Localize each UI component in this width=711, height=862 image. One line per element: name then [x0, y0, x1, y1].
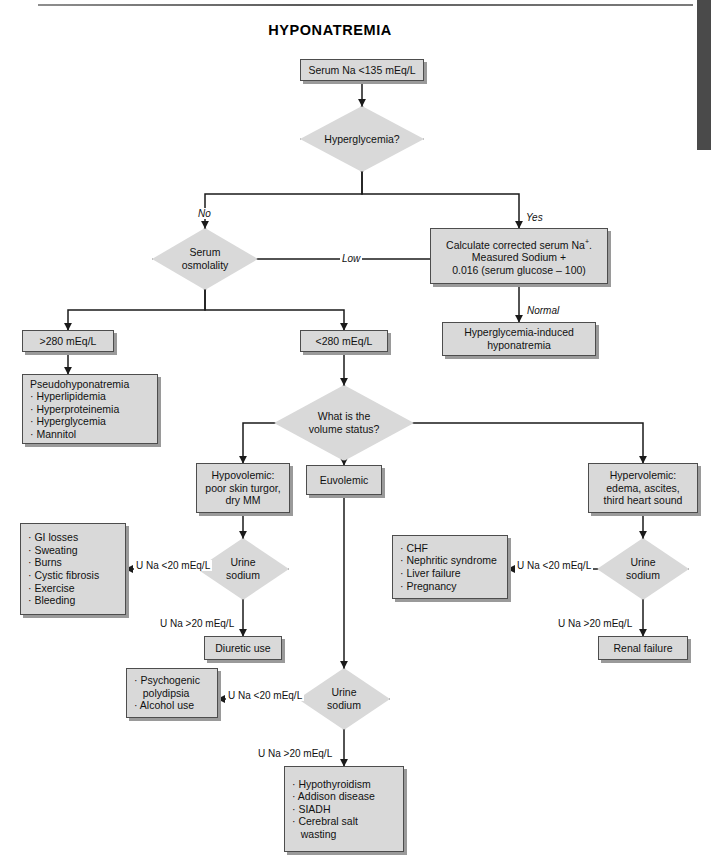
edge-osmolality-to-gt280	[68, 290, 205, 330]
list-item: · Alcohol use	[134, 699, 194, 712]
node-text: Serumosmolality	[152, 228, 258, 290]
node-line: Hyperglycemia-induced	[464, 326, 574, 339]
node-line: <280 mEq/L	[316, 335, 373, 348]
node-text: Pseudohyponatremia· Hyperlipidemia· Hype…	[22, 374, 158, 444]
node-urineRight: Urinesodium	[597, 538, 689, 600]
list-item: · Exercise	[28, 582, 75, 595]
node-start: Serum Na <135 mEq/L	[300, 59, 424, 81]
node-line: hyponatremia	[487, 339, 551, 352]
list-item: · Burns	[28, 556, 62, 569]
node-text: · Psychogenic polydipsia· Alcohol use	[126, 668, 218, 718]
edge-label-low: Low	[340, 253, 362, 264]
node-text: Calculate corrected serum Na+.Measured S…	[430, 228, 608, 284]
node-line: Diuretic use	[215, 642, 270, 655]
node-line: >280 mEq/L	[40, 335, 97, 348]
node-line: 0.016 (serum glucose – 100)	[452, 264, 586, 277]
node-hypervolemic: Hypervolemic:edema, ascites,third heart …	[588, 463, 698, 513]
list-item: · Hyperlipidemia	[30, 390, 106, 403]
node-hyperLowList: · CHF· Nephritic syndrome· Liver failure…	[392, 535, 508, 599]
list-item: · Cystic fibrosis	[28, 569, 99, 582]
node-line: Renal failure	[614, 642, 673, 655]
node-line: edema, ascites,	[606, 482, 680, 495]
node-line: poor skin turgor,	[205, 482, 280, 495]
node-osmolality: Serumosmolality	[152, 228, 258, 290]
list-item: · Cerebral salt	[292, 815, 358, 828]
node-text: · Hypothyroidism· Addison disease· SIADH…	[284, 766, 404, 852]
node-line: Measured Sodium +	[472, 251, 566, 264]
node-line: Euvolemic	[320, 474, 368, 487]
node-urineMid: Urinesodium	[298, 668, 390, 730]
list-item: · Hypothyroidism	[292, 778, 371, 791]
node-text: Renal failure	[598, 636, 688, 660]
node-text: What is thevolume status?	[274, 385, 414, 461]
node-line: Serum	[190, 246, 221, 259]
node-line: Urine	[331, 686, 356, 699]
node-hypovolemic: Hypovolemic:poor skin turgor,dry MM	[196, 463, 290, 513]
node-line: sodium	[226, 569, 260, 582]
node-diuretic: Diuretic use	[204, 636, 282, 660]
node-line: volume status?	[309, 423, 380, 436]
node-text: Hypervolemic:edema, ascites,third heart …	[588, 463, 698, 513]
node-hgInduced: Hyperglycemia-inducedhyponatremia	[442, 322, 596, 356]
node-pseudo: Pseudohyponatremia· Hyperlipidemia· Hype…	[22, 374, 158, 444]
node-text: Hypovolemic:poor skin turgor,dry MM	[196, 463, 290, 513]
node-euvoHighList: · Hypothyroidism· Addison disease· SIADH…	[284, 766, 404, 852]
list-item: · Mannitol	[30, 428, 76, 441]
node-lt280: <280 mEq/L	[300, 330, 388, 352]
list-item: · Bleeding	[28, 594, 75, 607]
node-text: >280 mEq/L	[22, 330, 114, 352]
edge-label-uNaHigh2: U Na >20 mEq/L	[556, 618, 634, 629]
node-euvolemic: Euvolemic	[306, 465, 382, 495]
node-line: Hypovolemic:	[211, 469, 274, 482]
list-item: polydipsia	[134, 687, 189, 700]
edge-label-no: No	[196, 208, 213, 219]
list-item: · Liver failure	[400, 567, 461, 580]
node-line: What is the	[318, 410, 371, 423]
list-item: · SIADH	[292, 803, 331, 816]
edge-hyperglycemia-to-osmolality	[205, 172, 362, 228]
node-text: Urinesodium	[298, 668, 390, 730]
flowchart-page: HYPONATREMIA	[0, 0, 711, 862]
node-line: sodium	[327, 699, 361, 712]
node-hypoLowList: · GI losses· Sweating· Burns· Cystic fib…	[20, 523, 126, 615]
edge-volume-to-hypervolemic	[393, 423, 643, 463]
list-item: wasting	[292, 828, 336, 841]
list-item: · Psychogenic	[134, 674, 200, 687]
node-line: Urine	[230, 556, 255, 569]
node-line: Urine	[630, 556, 655, 569]
node-calc: Calculate corrected serum Na+.Measured S…	[430, 228, 608, 284]
node-hyperglycemia: Hyperglycemia?	[300, 106, 424, 172]
node-text: <280 mEq/L	[300, 330, 388, 352]
edge-hyperglycemia-to-calc	[362, 172, 519, 228]
node-renalFailure: Renal failure	[598, 636, 688, 660]
list-item: · Hyperproteinemia	[30, 403, 119, 416]
node-line: Hyperglycemia?	[324, 133, 399, 146]
list-header: Pseudohyponatremia	[30, 378, 129, 391]
node-volume: What is thevolume status?	[274, 385, 414, 461]
edge-label-uNaLow2: U Na <20 mEq/L	[515, 560, 593, 571]
node-line: dry MM	[226, 494, 261, 507]
node-text: Hyperglycemia?	[300, 106, 424, 172]
list-item: · CHF	[400, 542, 428, 555]
list-item: · Pregnancy	[400, 580, 457, 593]
node-euvoLowList: · Psychogenic polydipsia· Alcohol use	[126, 668, 218, 718]
edge-label-uNaHigh1: U Na >20 mEq/L	[158, 618, 236, 629]
edge-label-uNaLow1: U Na <20 mEq/L	[134, 560, 212, 571]
node-line: Serum Na <135 mEq/L	[308, 64, 415, 77]
node-line: third heart sound	[604, 494, 683, 507]
node-line: sodium	[626, 569, 660, 582]
edge-label-yes: Yes	[524, 212, 545, 223]
node-text: Urinesodium	[597, 538, 689, 600]
node-text: Serum Na <135 mEq/L	[300, 59, 424, 81]
list-item: · Nephritic syndrome	[400, 554, 497, 567]
node-text: · GI losses· Sweating· Burns· Cystic fib…	[20, 523, 126, 615]
list-item: · Sweating	[28, 544, 78, 557]
node-text: · CHF· Nephritic syndrome· Liver failure…	[392, 535, 508, 599]
list-item: · GI losses	[28, 531, 78, 544]
edge-osmolality-to-lt280	[205, 290, 344, 330]
edge-label-uNaLow3: U Na <20 mEq/L	[226, 690, 304, 701]
edge-label-uNaHigh3: U Na >20 mEq/L	[256, 748, 334, 759]
node-text: Hyperglycemia-inducedhyponatremia	[442, 322, 596, 356]
node-text: Diuretic use	[204, 636, 282, 660]
list-item: · Hyperglycemia	[30, 415, 106, 428]
